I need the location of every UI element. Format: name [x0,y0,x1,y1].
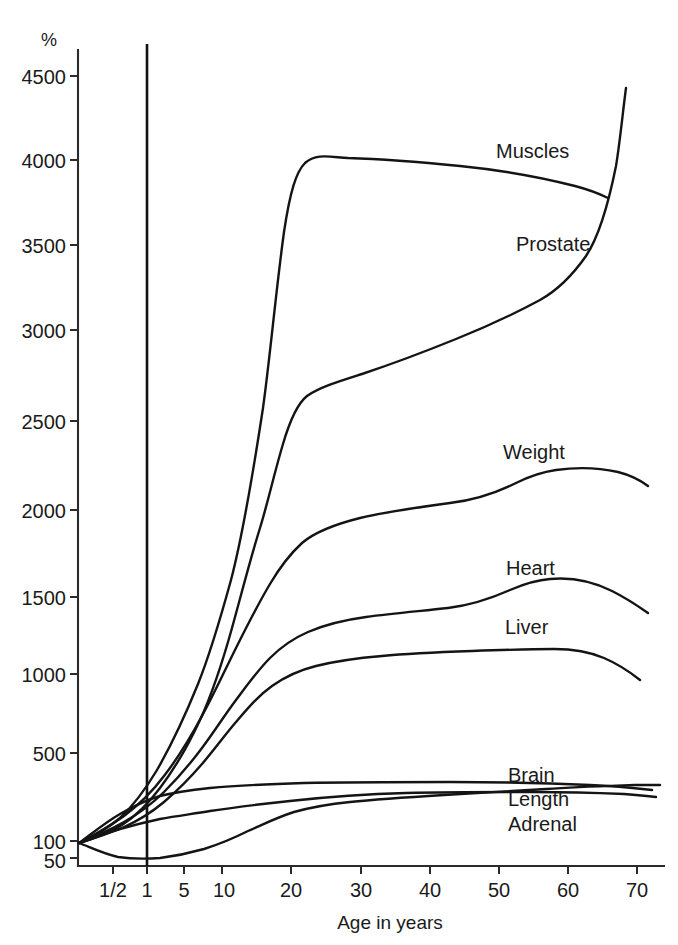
y-tick-label-500: 500 [33,743,66,765]
x-tick-label-1: 1 [141,879,152,901]
series-label-heart: Heart [506,557,555,579]
series-curves [79,88,660,859]
y-tick-label-3000: 3000 [22,320,67,342]
growth-curve-chart: % 4500 4000 3500 3000 2500 2000 1500 100… [0,0,678,945]
y-tick-label-4500: 4500 [22,66,67,88]
x-tick-label-40: 40 [419,879,441,901]
series-label-length: Length [508,788,569,810]
y-axis-unit-label: % [41,30,57,50]
x-tick-label-70: 70 [626,879,648,901]
series-label-adrenal: Adrenal [508,813,577,835]
y-tick-label-3500: 3500 [22,235,67,257]
x-tick-label-10: 10 [213,879,235,901]
series-label-liver: Liver [505,616,549,638]
y-tick-label-1500: 1500 [22,587,67,609]
chart-canvas: % 4500 4000 3500 3000 2500 2000 1500 100… [0,0,678,945]
x-tick-label-20: 20 [280,879,302,901]
curve-prostate [79,88,626,843]
y-tick-label-4000: 4000 [22,150,67,172]
x-tick-marks [113,866,637,874]
x-axis-title: Age in years [337,912,443,933]
x-tick-label-50: 50 [488,879,510,901]
curve-weight [79,468,648,843]
y-tick-label-2500: 2500 [22,411,67,433]
series-label-muscles: Muscles [496,140,569,162]
series-label-weight: Weight [503,441,565,463]
series-label-brain: Brain [508,764,555,786]
y-tick-marks [70,76,78,858]
y-tick-label-1000: 1000 [22,664,67,686]
x-tick-label-60: 60 [557,879,579,901]
curve-muscles [79,156,608,843]
y-tick-label-2000: 2000 [22,500,67,522]
x-tick-label-half: 1/2 [99,879,127,901]
y-tick-label-50: 50 [44,850,66,872]
series-label-prostate: Prostate [516,233,590,255]
x-tick-label-5: 5 [178,879,189,901]
x-tick-label-30: 30 [350,879,372,901]
